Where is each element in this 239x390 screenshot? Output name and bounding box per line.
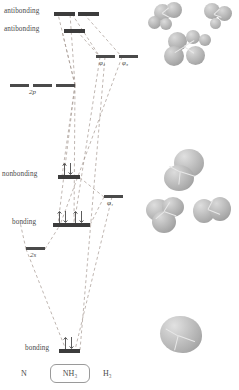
label-phi1: φ₁: [107, 199, 113, 207]
energy-level-antibonding-lower: [64, 29, 85, 33]
orbital-image-lowest-bonding: [146, 310, 239, 380]
mo-diagram-canvas: 2p 2s antibonding antibonding nonbonding…: [0, 0, 239, 390]
energy-level-bonding-mid-b: [69, 223, 90, 227]
label-antibonding-upper: antibonding: [4, 7, 39, 15]
energy-level-2p-1: [10, 84, 29, 87]
energy-level-nonbonding: [58, 175, 80, 179]
orbital-image-nonbonding-bonding: [146, 145, 239, 245]
energy-level-2p-3: [56, 84, 75, 87]
footer-label-ammonia-box: NH₃: [50, 364, 90, 383]
energy-level-phi1: [104, 195, 123, 198]
energy-level-2s: [26, 247, 45, 250]
footer-label-ammonia: NH₃: [63, 369, 77, 378]
orbital-image-antibonding: [146, 2, 239, 80]
energy-level-2p-2: [33, 84, 52, 87]
energy-level-phi2: [96, 55, 115, 58]
electron-pair-bonding-mid-b: [73, 211, 86, 223]
energy-level-antibonding-upper-b: [78, 12, 99, 16]
label-phi3: φ₃: [122, 59, 128, 67]
footer-label-h3: H₃: [103, 369, 112, 378]
energy-level-phi3: [119, 55, 138, 58]
energy-level-bonding-lowest: [59, 349, 80, 353]
electron-pair-bonding-mid-a: [57, 211, 70, 223]
label-2s: 2s: [30, 251, 36, 259]
electron-pair-nonbonding: [62, 163, 75, 175]
footer-label-nitrogen: N: [21, 369, 27, 378]
electron-pair-bonding-lowest: [63, 337, 76, 349]
label-bonding-lowest: bonding: [25, 344, 49, 352]
label-antibonding-lower: antibonding: [4, 25, 39, 33]
energy-level-antibonding-upper-a: [54, 12, 75, 16]
label-nonbonding: nonbonding: [2, 170, 37, 178]
label-phi2: φ₂: [99, 59, 105, 67]
label-2p: 2p: [29, 88, 36, 96]
label-bonding-mid: bonding: [12, 218, 36, 226]
